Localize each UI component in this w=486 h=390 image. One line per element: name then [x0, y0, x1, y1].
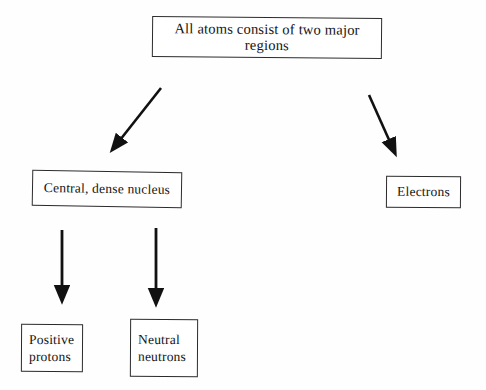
- node-electrons-label: Electrons: [387, 184, 460, 199]
- node-all-atoms: All atoms consist of two major regions: [152, 16, 382, 59]
- diagram-canvas: All atoms consist of two major regions C…: [0, 0, 486, 390]
- node-central-dense-nucleus-label: Central, dense nucleus: [33, 180, 181, 197]
- node-all-atoms-label: All atoms consist of two major regions: [153, 21, 381, 55]
- node-neutral-neutrons-label: Neutral neutrons: [138, 331, 197, 366]
- node-neutral-neutrons: Neutral neutrons: [130, 319, 198, 377]
- node-central-dense-nucleus: Central, dense nucleus: [32, 170, 183, 208]
- edge-root-to-nucleus: [120, 88, 161, 140]
- node-positive-protons-label: Positive protons: [29, 331, 82, 366]
- node-electrons: Electrons: [386, 176, 461, 209]
- node-positive-protons: Positive protons: [21, 324, 83, 372]
- edge-root-to-electrons: [369, 95, 390, 142]
